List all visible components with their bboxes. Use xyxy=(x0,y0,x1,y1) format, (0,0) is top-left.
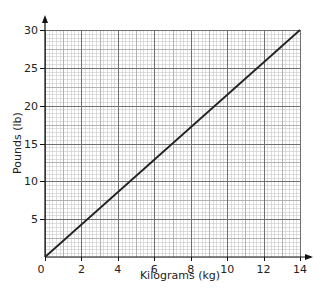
conversion-line xyxy=(45,30,300,257)
y-tick-label: 5 xyxy=(31,213,38,226)
data-line xyxy=(45,30,300,257)
x-tick-label: 12 xyxy=(257,263,271,276)
x-axis-arrow-icon xyxy=(305,254,313,260)
x-tick-label: 4 xyxy=(114,263,121,276)
y-axis-arrow-icon xyxy=(42,15,48,23)
y-tick-label: 30 xyxy=(24,24,38,37)
conversion-chart: 2468101214510152025300 Kilograms (kg) Po… xyxy=(0,0,329,304)
y-tick-label: 10 xyxy=(24,175,38,188)
y-tick-label: 20 xyxy=(24,100,38,113)
y-tick-label: 25 xyxy=(24,62,38,75)
y-axis-label: Pounds (lb) xyxy=(11,112,24,174)
x-tick-label: 2 xyxy=(78,263,85,276)
x-tick-label: 14 xyxy=(293,263,307,276)
x-tick-label: 10 xyxy=(220,263,234,276)
origin-label: 0 xyxy=(38,263,45,276)
y-tick-label: 15 xyxy=(24,138,38,151)
x-axis-label: Kilograms (kg) xyxy=(140,269,220,282)
